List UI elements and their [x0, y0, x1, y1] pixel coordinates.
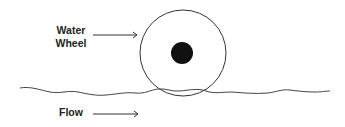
water-wheel-label-line2: Wheel [52, 37, 90, 50]
water-wheel-label-line1: Water [52, 24, 90, 37]
flow-arrow-icon [93, 111, 138, 117]
wheel-arrow-icon [93, 32, 137, 38]
water-surface-line [20, 87, 330, 95]
water-wheel-label: Water Wheel [52, 24, 90, 50]
water-wheel-diagram [0, 0, 345, 127]
wheel-hub [171, 42, 193, 64]
flow-label: Flow [56, 106, 86, 119]
